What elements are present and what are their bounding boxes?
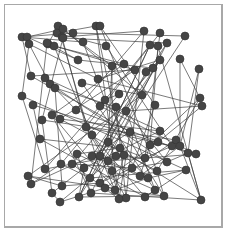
graph-node <box>136 172 144 180</box>
graph-node <box>128 164 136 172</box>
graph-node <box>108 167 116 175</box>
graph-node <box>68 160 76 168</box>
graph-node <box>176 55 184 63</box>
graph-node <box>146 141 154 149</box>
graph-node <box>141 154 149 162</box>
graph-node <box>156 29 164 37</box>
graph-node <box>131 66 139 74</box>
graph-node <box>156 127 164 135</box>
graph-node <box>192 150 200 158</box>
graph-node <box>88 152 96 160</box>
graph-node <box>181 32 189 40</box>
graph-node <box>101 184 109 192</box>
graph-node <box>126 128 134 136</box>
graph-node <box>86 174 94 182</box>
graph-node <box>120 151 128 159</box>
graph-node <box>58 182 66 190</box>
graph-node <box>151 186 159 194</box>
graph-node <box>41 165 49 173</box>
graph-node <box>51 84 59 92</box>
graph-node <box>163 158 171 166</box>
network-graph <box>0 0 230 232</box>
graph-node <box>116 144 124 152</box>
edge <box>73 33 185 36</box>
graph-node <box>146 41 154 49</box>
graph-node <box>122 194 130 202</box>
graph-node <box>72 106 80 114</box>
graph-node <box>182 166 190 174</box>
graph-node <box>141 193 149 201</box>
graph-node <box>115 90 123 98</box>
graph-node <box>151 101 159 109</box>
graph-node <box>36 135 44 143</box>
graph-node <box>73 150 81 158</box>
graph-node <box>144 174 152 182</box>
graph-node <box>140 27 148 35</box>
graph-node <box>138 91 146 99</box>
graph-node <box>153 167 161 175</box>
graph-node <box>78 79 86 87</box>
graph-node <box>104 157 112 165</box>
graph-node <box>197 196 205 204</box>
graph-node <box>29 101 37 109</box>
graph-node <box>198 102 206 110</box>
graph-node <box>154 42 162 50</box>
graph-node <box>38 116 46 124</box>
graph-node <box>120 60 128 68</box>
graph-node <box>74 56 82 64</box>
graph-node <box>142 68 150 76</box>
graph-node <box>156 56 164 64</box>
graph-node <box>87 189 95 197</box>
graph-node <box>27 72 35 80</box>
graph-node <box>184 149 192 157</box>
graph-node <box>102 42 110 50</box>
graph-node <box>43 39 51 47</box>
graph-node <box>48 189 56 197</box>
graph-node <box>96 102 104 110</box>
graph-node <box>88 131 96 139</box>
graph-node <box>112 103 120 111</box>
graph-node <box>69 29 77 37</box>
graph-node <box>115 195 123 203</box>
graph-node <box>48 111 56 119</box>
graph-node <box>160 192 168 200</box>
graph-node <box>195 65 203 73</box>
graph-node <box>96 152 104 160</box>
graph-node <box>27 180 35 188</box>
graph-node <box>57 160 65 168</box>
graph-node <box>108 62 116 70</box>
graph-node <box>122 107 130 115</box>
graph-node <box>163 39 171 47</box>
graph-node <box>104 138 112 146</box>
graph-node <box>18 92 26 100</box>
graph-node <box>82 123 90 131</box>
graph-node <box>24 172 32 180</box>
graph-node <box>176 142 184 150</box>
graph-node <box>149 64 157 72</box>
graph-node <box>75 193 83 201</box>
graph-node <box>79 38 87 46</box>
edge <box>42 120 52 193</box>
graph-node <box>56 198 64 206</box>
graph-node <box>154 138 162 146</box>
graph-node <box>94 75 102 83</box>
edge <box>188 69 199 153</box>
graph-node <box>96 22 104 30</box>
graph-node <box>80 164 88 172</box>
graph-node <box>196 94 204 102</box>
graph-node <box>56 115 64 123</box>
graph-node <box>112 152 120 160</box>
graph-node <box>111 186 119 194</box>
graph-node <box>59 34 67 42</box>
graph-node <box>59 25 67 33</box>
graph-node <box>25 40 33 48</box>
edge <box>31 43 47 184</box>
